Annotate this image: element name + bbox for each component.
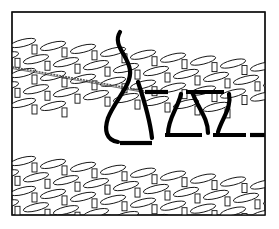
stitch-leg (45, 61, 50, 70)
stitch-leg (15, 88, 20, 97)
knit-stitch (130, 226, 157, 229)
knit-stitch (0, 228, 19, 229)
stitch-leg (2, 42, 7, 51)
stitch-leg (62, 196, 67, 205)
stitch-leg (32, 105, 37, 114)
stitch-leg (225, 197, 230, 206)
stitch-leg (135, 100, 140, 109)
stitch-leg (182, 178, 187, 187)
stitch-leg (165, 191, 170, 200)
stitch-leg (105, 97, 110, 106)
stitch-leg (32, 223, 37, 229)
stitch-leg (105, 67, 110, 76)
stitch-leg (272, 187, 277, 196)
stitch-leg (2, 102, 7, 111)
stitch-leg (225, 79, 230, 88)
stitch-leg (225, 227, 230, 229)
knit-stitch (10, 214, 37, 227)
stitch-leg (2, 190, 7, 199)
stitch-leg (32, 75, 37, 84)
stitch-leg (165, 221, 170, 229)
stitch-leg (212, 181, 217, 190)
stitch-leg (165, 73, 170, 82)
stitch-leg (135, 188, 140, 197)
stitch-leg (182, 60, 187, 69)
knit-stitch (203, 218, 230, 229)
stitch-leg (62, 166, 67, 175)
stitch-leg (32, 163, 37, 172)
stitch-leg (45, 179, 50, 188)
knit-stitch (0, 151, 6, 164)
stitch-leg (255, 200, 260, 209)
stitch-leg (212, 63, 217, 72)
stitch-leg (62, 78, 67, 87)
knit-stitch (173, 215, 200, 228)
stitch-leg (15, 206, 20, 215)
stitch-leg (195, 224, 200, 229)
knit-stitch (40, 217, 67, 229)
stitch-leg (195, 76, 200, 85)
knit-stitch (0, 63, 6, 76)
stitch-leg (62, 48, 67, 57)
stitch-leg (272, 69, 277, 78)
stitch-leg (135, 70, 140, 79)
stitch-leg (45, 209, 50, 218)
stitch-leg (105, 215, 110, 224)
stitch-leg (152, 175, 157, 184)
stitch-leg (105, 185, 110, 194)
stitch-leg (255, 82, 260, 91)
stitch-leg (122, 172, 127, 181)
stitch-leg (75, 94, 80, 103)
stitch-leg (272, 217, 277, 226)
knit-stitch (263, 224, 279, 229)
stitch-leg (242, 96, 247, 105)
stitch-leg (92, 169, 97, 178)
stitch-leg (195, 194, 200, 203)
stitch-leg (75, 64, 80, 73)
stitch-leg (92, 51, 97, 60)
knit-stitch (0, 33, 6, 46)
knit-stitch (70, 220, 97, 229)
knit-stitch (233, 221, 260, 229)
knit-stitch (0, 211, 6, 224)
stitch-leg (75, 212, 80, 221)
stitch-leg (135, 218, 140, 227)
stitch-leg (242, 66, 247, 75)
knit-stitch (0, 93, 6, 106)
knitting-grafting-illustration (0, 0, 279, 229)
stitch-leg (32, 193, 37, 202)
knit-stitch (100, 223, 127, 229)
stitch-leg (272, 99, 277, 108)
stitch-leg (45, 91, 50, 100)
stitch-leg (15, 176, 20, 185)
stitch-leg (32, 45, 37, 54)
stitch-leg (62, 226, 67, 229)
stitch-leg (75, 182, 80, 191)
stitch-leg (152, 205, 157, 214)
stitch-leg (62, 108, 67, 117)
stitch-leg (15, 58, 20, 67)
stitch-leg (2, 160, 7, 169)
stitch-leg (152, 57, 157, 66)
knit-stitch (0, 181, 6, 194)
stitch-leg (2, 220, 7, 229)
stitch-leg (242, 184, 247, 193)
stitch-leg (92, 199, 97, 208)
stitch-leg (165, 103, 170, 112)
stitch-leg (2, 72, 7, 81)
stitch-leg (122, 202, 127, 211)
